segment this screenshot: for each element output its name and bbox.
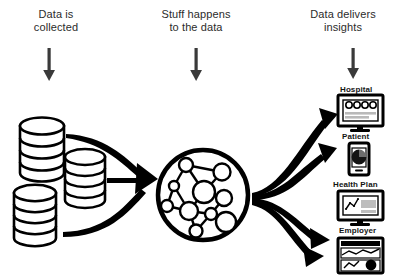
down-arrow-icon-collect (43, 48, 55, 81)
desktop-monitor-gauges-icon (338, 95, 383, 132)
database-cylinder-icon-1 (20, 118, 64, 182)
down-arrow-icon-process (190, 48, 202, 81)
outflow-connectors (252, 108, 338, 267)
network-graph-circle-icon (158, 150, 248, 240)
diagram-canvas: Data is collected Stuff happens to the d… (0, 0, 393, 279)
desktop-monitor-line-chart-icon (338, 191, 383, 226)
database-cylinder-icon-3 (14, 185, 56, 246)
database-cylinder-icon-2 (65, 149, 105, 208)
report-card-chart-icon (338, 238, 383, 273)
down-arrow-icon-deliver (347, 48, 359, 79)
smartphone-pie-chart-icon (349, 143, 369, 175)
